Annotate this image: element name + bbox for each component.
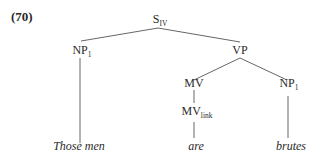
node-mv: MV <box>184 76 203 91</box>
node-subscript: link <box>201 111 213 120</box>
node-subscript: IV <box>159 19 167 28</box>
node-label: NP <box>72 43 87 57</box>
node-label: VP <box>232 43 247 57</box>
node-np1-left: NP1 <box>72 43 91 59</box>
leaf-verb: are <box>188 139 204 154</box>
node-label: MV <box>181 104 200 118</box>
node-subscript: 1 <box>295 83 299 92</box>
node-label: S <box>153 12 160 26</box>
node-mv-link: MVlink <box>181 104 212 120</box>
leaf-subject: Those men <box>53 139 105 154</box>
leaf-complement: brutes <box>276 139 306 154</box>
node-subscript: 1 <box>88 50 92 59</box>
node-np1-right: NP1 <box>279 76 298 92</box>
node-vp: VP <box>232 43 247 58</box>
node-s-iv: SIV <box>153 12 168 28</box>
node-label: MV <box>184 76 203 90</box>
node-label: NP <box>279 76 294 90</box>
